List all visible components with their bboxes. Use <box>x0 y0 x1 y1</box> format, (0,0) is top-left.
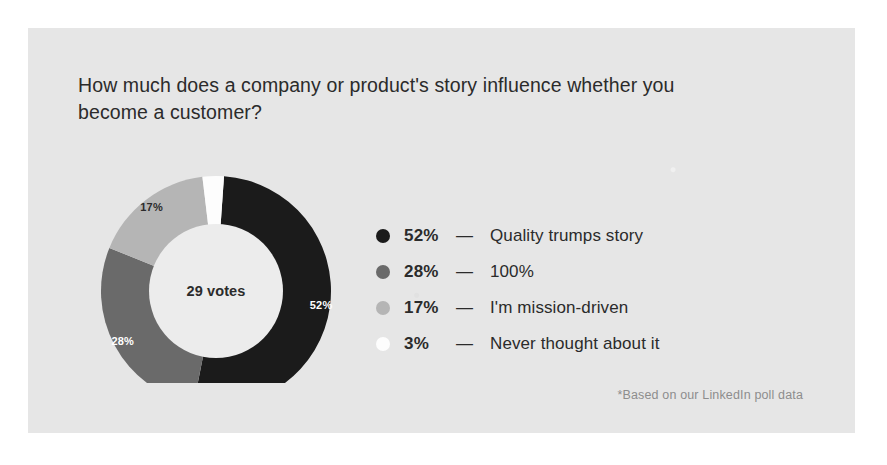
legend-percentage: 28% <box>404 262 456 282</box>
donut-slice-label: 28% <box>111 335 134 347</box>
legend-color-swatch-icon <box>376 301 390 315</box>
chart-footnote: *Based on our LinkedIn poll data <box>618 388 804 402</box>
legend-separator: — <box>456 226 490 246</box>
legend-percentage: 52% <box>404 226 456 246</box>
legend-label: 100% <box>490 262 534 282</box>
legend-row: 17%—I'm mission-driven <box>376 290 806 326</box>
legend-label: I'm mission-driven <box>490 298 628 318</box>
legend-separator: — <box>456 262 490 282</box>
legend-row: 28%—100% <box>376 254 806 290</box>
legend-percentage: 3% <box>404 334 456 354</box>
poll-result-card: How much does a company or product's sto… <box>28 28 855 433</box>
legend-label: Quality trumps story <box>490 226 643 246</box>
poll-question-title: How much does a company or product's sto… <box>78 72 698 126</box>
chart-legend: 52%—Quality trumps story28%—100%17%—I'm … <box>376 218 806 362</box>
donut-slice-label: 52% <box>310 299 333 311</box>
legend-row: 3%—Never thought about it <box>376 326 806 362</box>
screenshot-root: How much does a company or product's sto… <box>0 0 887 465</box>
legend-color-swatch-icon <box>376 265 390 279</box>
donut-chart: 29 votes 52%28%17% <box>73 133 363 383</box>
legend-color-swatch-icon <box>376 337 390 351</box>
donut-slice-label: 17% <box>140 201 163 213</box>
donut-chart-svg: 29 votes 52%28%17% <box>73 133 363 383</box>
legend-separator: — <box>456 298 490 318</box>
donut-center-votes: 29 votes <box>187 283 246 299</box>
legend-color-swatch-icon <box>376 229 390 243</box>
legend-separator: — <box>456 334 490 354</box>
legend-label: Never thought about it <box>490 334 659 354</box>
legend-percentage: 17% <box>404 298 456 318</box>
legend-row: 52%—Quality trumps story <box>376 218 806 254</box>
